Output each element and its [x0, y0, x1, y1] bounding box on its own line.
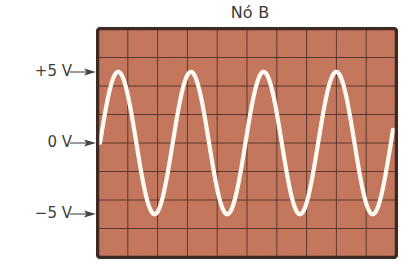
node-title: Nó B: [200, 3, 300, 22]
waveform-plot: [96, 27, 398, 259]
label-plus-5v: +5 V: [35, 62, 72, 80]
arrow-right-icon: [70, 138, 96, 148]
oscilloscope-screen: [96, 27, 398, 259]
label-zero-v: 0 V: [47, 133, 72, 151]
arrow-right-icon: [70, 67, 96, 77]
arrow-right-icon: [70, 209, 96, 219]
label-minus-5v: −5 V: [35, 204, 72, 222]
